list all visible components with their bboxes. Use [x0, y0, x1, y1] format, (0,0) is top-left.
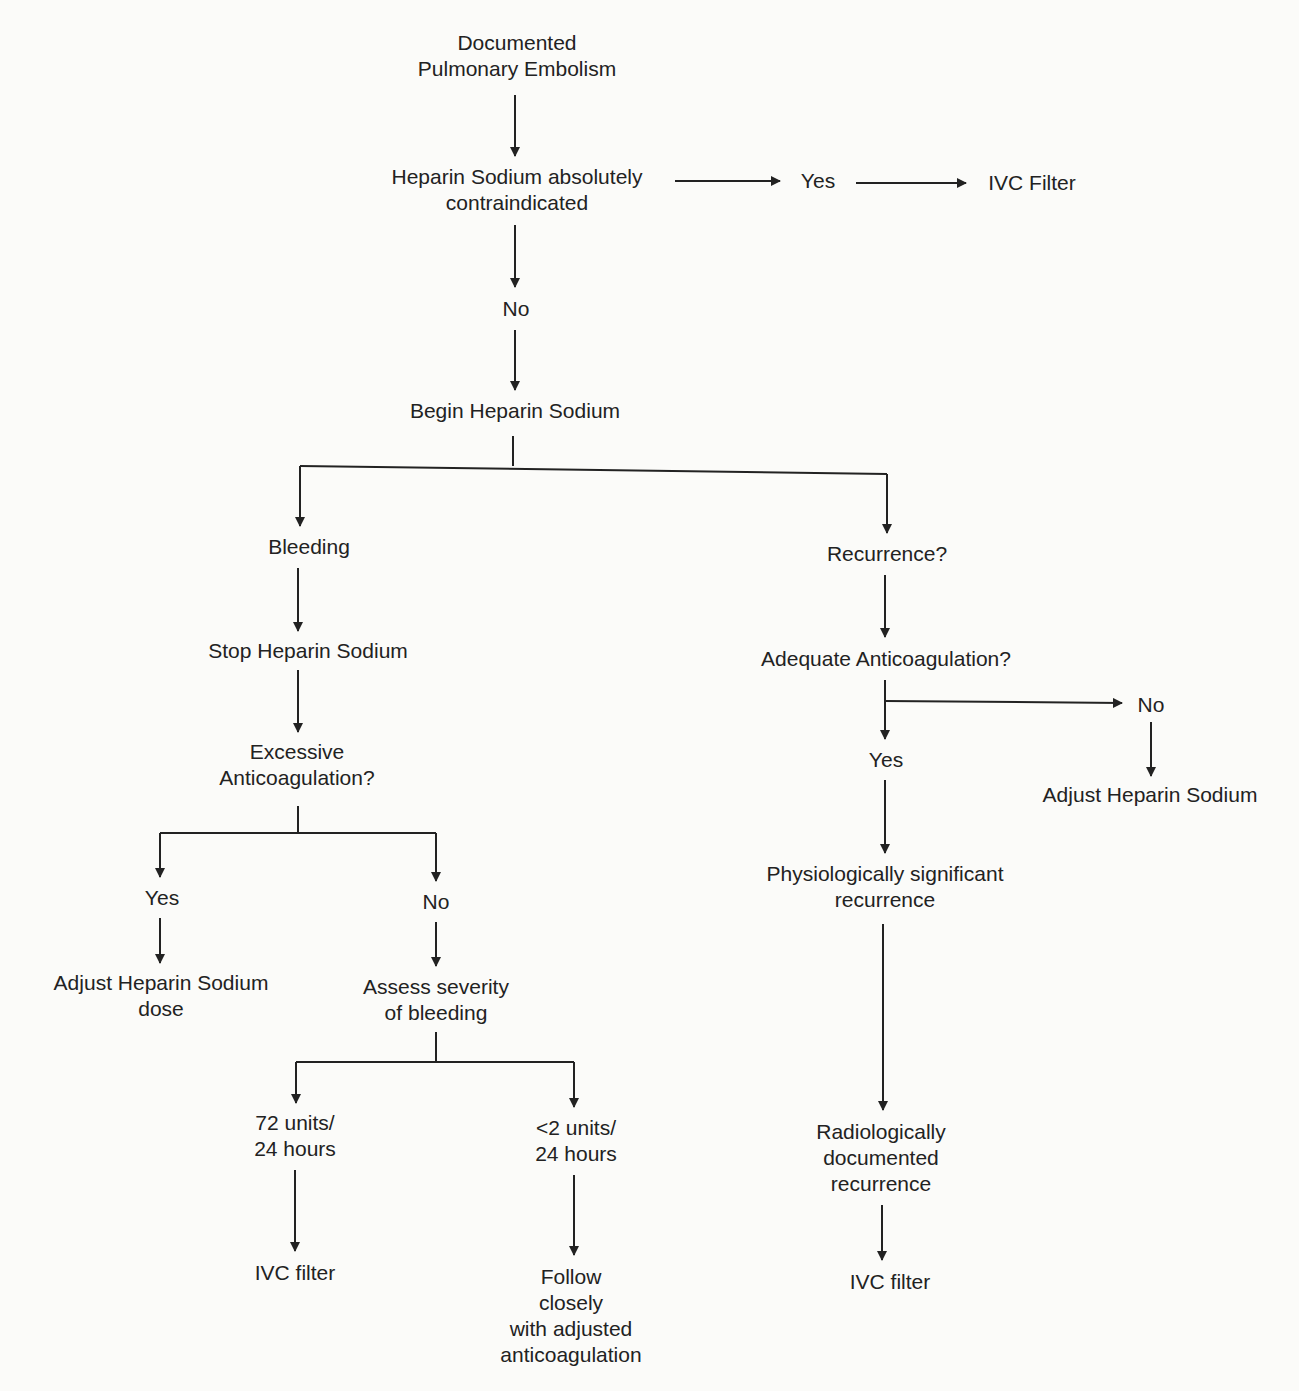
- node-bleeding: Bleeding: [268, 534, 350, 560]
- node-begin-heparin: Begin Heparin Sodium: [410, 398, 620, 424]
- node-top-no: No: [503, 296, 530, 322]
- node-top-ivc-filter: IVC Filter: [988, 170, 1076, 196]
- node-documented-pe: Documented Pulmonary Embolism: [418, 30, 616, 82]
- node-ivc-filter-left: IVC filter: [255, 1260, 336, 1286]
- node-adequate-yes: Yes: [869, 747, 903, 773]
- node-heparin-contraindicated: Heparin Sodium absolutely contraindicate…: [392, 164, 643, 216]
- node-radiologically-documented: Radiologically documented recurrence: [816, 1119, 946, 1197]
- node-follow-closely: Follow closely with adjusted anticoagula…: [500, 1264, 641, 1368]
- node-ivc-filter-right: IVC filter: [850, 1269, 931, 1295]
- node-stop-heparin: Stop Heparin Sodium: [208, 638, 408, 664]
- node-assess-severity: Assess severity of bleeding: [363, 974, 509, 1026]
- node-adjust-heparin: Adjust Heparin Sodium: [1043, 782, 1258, 808]
- node-72-units: 72 units/ 24 hours: [254, 1110, 336, 1162]
- node-recurrence: Recurrence?: [827, 541, 947, 567]
- node-adequate-anticoagulation: Adequate Anticoagulation?: [761, 646, 1011, 672]
- node-adequate-no: No: [1138, 692, 1165, 718]
- flowchart-connectors: [0, 0, 1299, 1391]
- node-physiologically-significant: Physiologically significant recurrence: [767, 861, 1004, 913]
- node-adjust-heparin-dose: Adjust Heparin Sodium dose: [54, 970, 269, 1022]
- node-excessive-yes: Yes: [145, 885, 179, 911]
- node-lt2-units: <2 units/ 24 hours: [535, 1115, 617, 1167]
- node-excessive-no: No: [423, 889, 450, 915]
- node-excessive-anticoagulation: Excessive Anticoagulation?: [219, 739, 374, 791]
- node-top-yes: Yes: [801, 168, 835, 194]
